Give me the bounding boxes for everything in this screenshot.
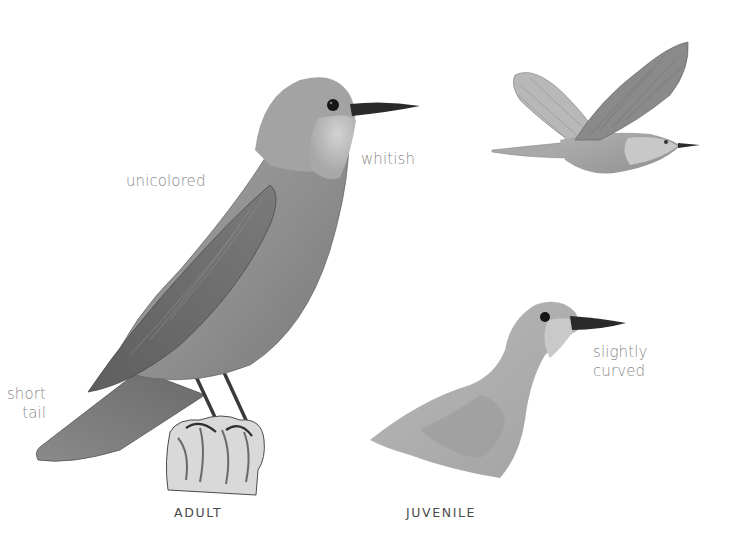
annotation-short-tail-line2: tail: [6, 404, 46, 423]
annotation-whitish: whitish: [361, 150, 415, 169]
annotation-short-tail: short tail: [6, 385, 46, 423]
juvenile-flying-bird-illustration: [492, 42, 700, 174]
annotation-slightly-curved: slightly curved: [593, 343, 647, 381]
juvenile-head-illustration: [370, 302, 626, 478]
bird-illustrations: [0, 0, 747, 547]
annotation-unicolored: unicolored: [126, 172, 206, 191]
annotation-short-tail-line1: short: [6, 385, 46, 404]
annotation-slightly-curved-line2: curved: [593, 362, 647, 381]
annotation-slightly-curved-line1: slightly: [593, 343, 647, 362]
caption-juvenile: JUVENILE: [406, 505, 476, 520]
adult-bird-illustration: [36, 77, 420, 495]
bird-illustration-plate: unicolored whitish short tail slightly c…: [0, 0, 747, 547]
caption-adult: ADULT: [174, 505, 222, 520]
